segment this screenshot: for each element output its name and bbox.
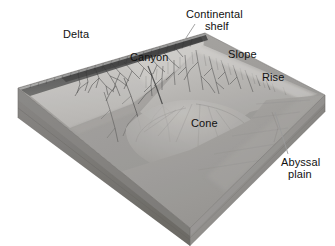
block-diagram-figure: [0, 0, 335, 246]
block-diagram-svg: [0, 0, 335, 246]
